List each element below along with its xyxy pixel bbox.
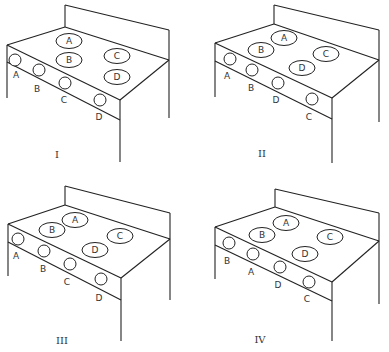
- burner-C: C: [313, 47, 339, 62]
- knob-label: B: [34, 84, 40, 94]
- burner-label: B: [49, 225, 55, 235]
- burner-label: A: [281, 33, 288, 43]
- knob-C: C: [64, 258, 76, 287]
- burner-label: B: [66, 55, 72, 65]
- knob-circle: [306, 93, 318, 105]
- knob-label: D: [275, 280, 282, 290]
- burner-label: C: [114, 51, 120, 61]
- backsplash-top-edge: [275, 189, 379, 213]
- knob-circle: [303, 276, 315, 288]
- stove-panel-IV: ABCDBADCIV: [195, 176, 389, 352]
- knob-circle: [59, 77, 71, 89]
- stove-drawing: ABCDABDCII: [195, 0, 389, 176]
- panel-number-label: I: [55, 149, 59, 160]
- knob-circle: [12, 233, 24, 245]
- stove-figure: ABCDABCDI ABCDABDCII ABCDABCDIII ABCDBAD…: [0, 0, 389, 352]
- panel-number-label: III: [56, 335, 68, 346]
- knob-label: A: [248, 267, 255, 277]
- knob-circle: [272, 77, 284, 89]
- backsplash-top-edge: [65, 5, 169, 30]
- knob-B: B: [246, 64, 258, 93]
- knob-A: A: [247, 248, 259, 277]
- cooktop-right-edge: [121, 239, 170, 278]
- panel-number-label: II: [258, 148, 266, 159]
- cooktop-right-edge: [332, 241, 379, 282]
- cooktop-left-back-edge: [215, 24, 274, 43]
- burner-label: D: [92, 245, 99, 255]
- burner-D: D: [104, 70, 130, 85]
- knob-circle: [223, 237, 235, 249]
- backsplash-top-edge: [65, 186, 170, 213]
- knob-label: D: [96, 293, 103, 303]
- knob-circle: [33, 64, 45, 76]
- knob-label: D: [273, 95, 280, 105]
- burner-label: D: [299, 63, 306, 73]
- knob-label: C: [61, 95, 67, 105]
- knob-label: B: [40, 264, 46, 274]
- backsplash-top-edge: [274, 5, 379, 30]
- burner-label: C: [117, 231, 123, 241]
- knob-circle: [224, 53, 236, 65]
- knob-label: B: [248, 83, 254, 93]
- cooktop-left-back-edge: [215, 207, 275, 227]
- control-panel-bottom-edge: [7, 62, 120, 120]
- stove-panel-II: ABCDABDCII: [195, 0, 389, 176]
- burner-B: B: [249, 228, 275, 243]
- knob-circle: [94, 94, 106, 106]
- panel-number-label: IV: [254, 334, 266, 345]
- knob-circle: [247, 248, 259, 260]
- burner-A: A: [62, 213, 88, 228]
- burner-label: D: [302, 249, 309, 259]
- knob-label: C: [306, 112, 312, 122]
- cooktop-left-back-edge: [8, 205, 65, 224]
- burner-B: B: [39, 223, 65, 238]
- burner-label: B: [259, 230, 265, 240]
- knob-circle: [9, 54, 21, 66]
- knob-D: D: [274, 261, 286, 290]
- knob-circle: [38, 245, 50, 257]
- stove-panel-I: ABCDABCDI: [0, 0, 195, 176]
- stove-drawing: ABCDABCDI: [0, 0, 195, 176]
- burner-B: B: [248, 43, 274, 58]
- knob-circle: [64, 258, 76, 270]
- knob-label: C: [64, 277, 70, 287]
- knob-label: B: [224, 256, 230, 266]
- knob-B: B: [38, 245, 50, 274]
- knob-label: A: [224, 71, 231, 81]
- burner-A: A: [273, 216, 299, 231]
- burner-C: C: [107, 229, 133, 244]
- burner-label: A: [72, 215, 79, 225]
- burner-C: C: [104, 49, 130, 64]
- knob-C: C: [59, 77, 71, 105]
- burner-label: A: [66, 36, 73, 46]
- burner-D: D: [82, 243, 108, 258]
- knob-label: A: [13, 251, 20, 261]
- knob-A: A: [9, 54, 21, 80]
- knob-label: C: [304, 294, 310, 304]
- knob-label: A: [13, 70, 20, 80]
- burner-label: D: [114, 72, 121, 82]
- burner-label: C: [323, 49, 329, 59]
- cooktop-right-edge: [332, 60, 379, 98]
- burner-D: D: [289, 61, 315, 76]
- burner-label: A: [283, 218, 290, 228]
- knob-circle: [246, 64, 258, 76]
- stove-drawing: ABCDABCDIII: [0, 176, 195, 352]
- stove-panel-III: ABCDABCDIII: [0, 176, 195, 352]
- stove-drawing: ABCDBADCIV: [195, 176, 389, 352]
- burner-B: B: [56, 53, 82, 68]
- knob-circle: [274, 261, 286, 273]
- knob-circle: [95, 273, 107, 285]
- burner-label: B: [258, 45, 264, 55]
- burner-A: A: [56, 34, 82, 49]
- burner-C: C: [317, 230, 343, 245]
- knob-label: D: [96, 112, 103, 122]
- burner-label: C: [327, 232, 333, 242]
- burner-D: D: [292, 247, 318, 262]
- burner-A: A: [271, 31, 297, 46]
